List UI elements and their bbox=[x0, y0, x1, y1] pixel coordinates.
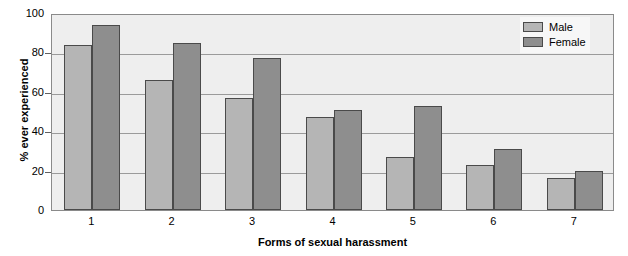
bar-male-3 bbox=[225, 98, 253, 210]
x-tick-label: 1 bbox=[71, 215, 111, 228]
bar-male-1 bbox=[64, 45, 92, 210]
bar-chart-figure: % ever experienced 020406080100 1234567 … bbox=[0, 0, 628, 256]
legend-label: Female bbox=[549, 37, 586, 48]
legend-swatch-male bbox=[523, 22, 543, 32]
bar-female-2 bbox=[173, 43, 201, 210]
legend-entry-female: Female bbox=[523, 35, 586, 49]
y-tick-label: 100 bbox=[14, 8, 44, 19]
bar-male-4 bbox=[306, 117, 334, 210]
bar-male-2 bbox=[145, 80, 173, 210]
bar-group bbox=[466, 15, 522, 210]
y-tick-label: 0 bbox=[14, 205, 44, 216]
x-axis-tick-labels: 1234567 bbox=[51, 215, 614, 231]
legend-swatch-female bbox=[523, 37, 543, 47]
y-tick-label: 20 bbox=[14, 166, 44, 177]
bar-group bbox=[145, 15, 201, 210]
bar-male-5 bbox=[386, 157, 414, 210]
x-axis-title: Forms of sexual harassment bbox=[51, 236, 614, 248]
legend-entry-male: Male bbox=[523, 20, 586, 34]
y-axis-tick-labels: 020406080100 bbox=[14, 14, 44, 211]
bar-female-5 bbox=[414, 106, 442, 210]
bar-male-7 bbox=[547, 178, 575, 210]
bar-group bbox=[306, 15, 362, 210]
bar-group bbox=[64, 15, 120, 210]
bar-male-6 bbox=[466, 165, 494, 210]
x-tick-label: 2 bbox=[152, 215, 192, 228]
x-tick-label: 3 bbox=[232, 215, 272, 228]
x-tick-label: 4 bbox=[313, 215, 353, 228]
bar-group bbox=[386, 15, 442, 210]
legend-label: Male bbox=[549, 22, 573, 33]
x-tick-label: 7 bbox=[554, 215, 594, 228]
bar-female-6 bbox=[494, 149, 522, 210]
bar-female-1 bbox=[92, 25, 120, 210]
bar-female-7 bbox=[575, 171, 603, 210]
bar-female-4 bbox=[334, 110, 362, 210]
y-tick-label: 60 bbox=[14, 87, 44, 98]
x-tick-label: 5 bbox=[393, 215, 433, 228]
bar-group bbox=[225, 15, 281, 210]
bar-female-3 bbox=[253, 58, 281, 210]
y-tick-label: 40 bbox=[14, 126, 44, 137]
y-tick-label: 80 bbox=[14, 47, 44, 58]
x-tick-label: 6 bbox=[473, 215, 513, 228]
chart-legend: MaleFemale bbox=[520, 17, 590, 53]
